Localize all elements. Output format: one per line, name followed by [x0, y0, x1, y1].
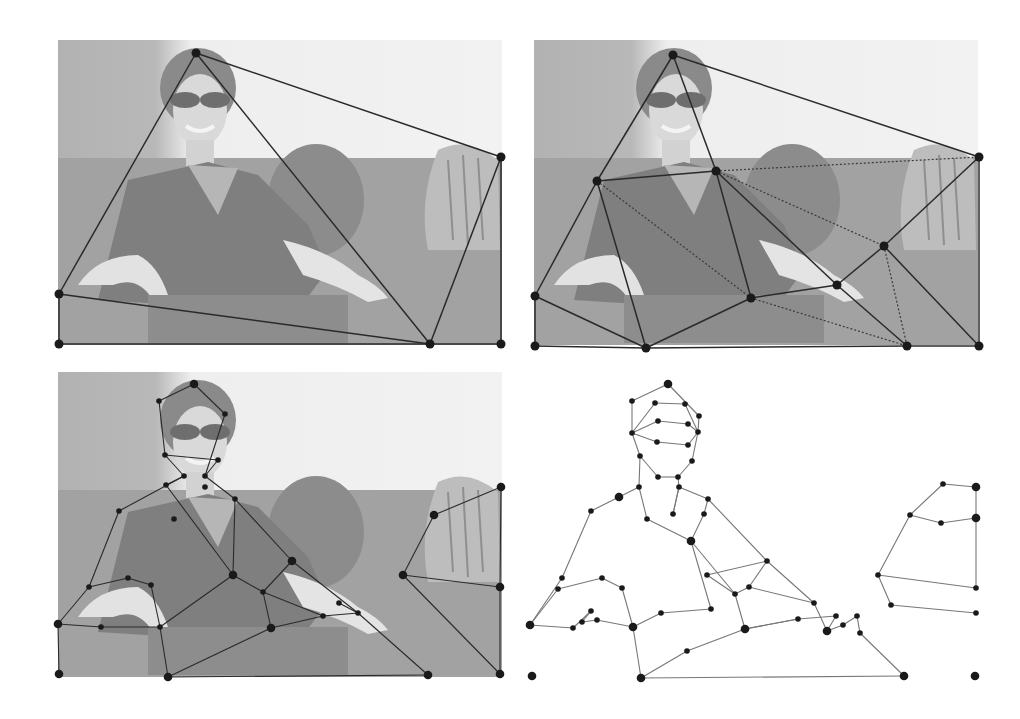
mesh-edge	[891, 605, 976, 613]
mesh-node	[669, 51, 678, 60]
mesh-edge	[707, 561, 767, 575]
mesh-node	[833, 613, 839, 619]
mesh-node	[940, 481, 946, 487]
mesh-edge	[658, 421, 688, 424]
mesh-node	[684, 648, 690, 654]
mesh-edge	[673, 487, 679, 514]
mesh-node	[424, 671, 433, 680]
mesh-node	[840, 622, 846, 628]
mesh-edge	[562, 511, 591, 578]
mesh-node	[907, 512, 913, 518]
mesh-node	[355, 610, 361, 616]
mesh-edge	[640, 456, 658, 477]
mesh-node	[559, 575, 565, 581]
mesh-edge	[910, 515, 941, 523]
mesh-node	[741, 625, 750, 634]
mesh-edge	[632, 384, 668, 401]
mesh-node	[531, 292, 540, 301]
mesh-node	[682, 401, 688, 407]
mesh-node	[652, 400, 658, 406]
mesh-node	[192, 49, 201, 58]
mesh-node	[555, 586, 561, 592]
mesh-node	[497, 153, 506, 162]
mesh-edge	[910, 484, 943, 515]
mesh-node	[973, 610, 979, 616]
mesh-node	[162, 452, 168, 458]
mesh-edge	[558, 578, 602, 589]
mesh-node	[689, 458, 695, 464]
mesh-node	[732, 591, 738, 597]
mesh-node	[696, 413, 702, 419]
mesh-node	[747, 294, 756, 303]
mesh-edge	[597, 620, 633, 627]
mesh-node	[54, 620, 63, 629]
mesh-node	[746, 584, 752, 590]
mesh-node	[687, 537, 696, 546]
mesh-node	[664, 380, 673, 389]
mesh-node	[215, 457, 221, 463]
mesh-edge	[860, 633, 904, 676]
mesh-node	[658, 610, 664, 616]
mesh-edge	[735, 594, 745, 629]
mesh-node	[528, 672, 537, 681]
mesh-edge	[679, 487, 708, 499]
mesh-node	[202, 484, 208, 490]
mesh-node	[670, 511, 676, 517]
panel-4-mesh	[526, 380, 981, 683]
mesh-node	[973, 585, 979, 591]
mesh-node	[619, 585, 625, 591]
mesh-node	[938, 520, 944, 526]
mesh-node	[260, 589, 266, 595]
mesh-node	[975, 342, 984, 351]
mesh-node	[704, 572, 710, 578]
mesh-node	[705, 496, 711, 502]
mesh-node	[971, 672, 980, 681]
mesh-node	[644, 516, 650, 522]
mesh-edge	[632, 421, 658, 433]
mesh-node	[496, 670, 505, 679]
mesh-node	[875, 572, 881, 578]
mesh-node	[116, 508, 122, 514]
mesh-edge	[632, 433, 657, 442]
mesh-node	[701, 511, 707, 517]
mesh-node	[642, 344, 651, 353]
mesh-node	[497, 340, 506, 349]
mesh-node	[267, 624, 276, 633]
mesh-edge	[687, 629, 745, 651]
mesh-edge	[641, 676, 904, 678]
mesh-edge	[943, 484, 976, 487]
mesh-node	[570, 625, 576, 631]
mesh-node	[880, 242, 889, 251]
mesh-node	[685, 442, 691, 448]
mesh-node	[526, 621, 535, 630]
mesh-edge	[602, 578, 622, 588]
mesh-edge	[639, 456, 640, 487]
mesh-node	[712, 167, 721, 176]
mesh-node	[496, 583, 505, 592]
mesh-node	[157, 624, 163, 630]
mesh-edge	[633, 613, 661, 627]
mesh-node	[55, 670, 64, 679]
mesh-node	[55, 340, 64, 349]
mesh-edge	[530, 625, 573, 628]
mesh-node	[599, 575, 605, 581]
mesh-node	[430, 511, 439, 520]
mesh-node	[764, 558, 770, 564]
mesh-node	[655, 418, 661, 424]
mesh-node	[125, 575, 131, 581]
mesh-edge	[691, 541, 735, 594]
mesh-edge	[798, 616, 836, 619]
mesh-node	[579, 619, 585, 625]
mesh-node	[629, 430, 635, 436]
mesh-node	[55, 290, 64, 299]
mesh-edge	[646, 346, 907, 348]
mesh-node	[655, 474, 661, 480]
mesh-node	[232, 496, 238, 502]
mesh-node	[588, 608, 594, 614]
mesh-node	[336, 600, 342, 606]
mesh-edge	[668, 384, 699, 416]
panel-1-coarse-triangulation	[0, 0, 1020, 719]
mesh-node	[86, 584, 92, 590]
mesh-edge	[708, 499, 767, 561]
mesh-edge	[632, 403, 655, 433]
